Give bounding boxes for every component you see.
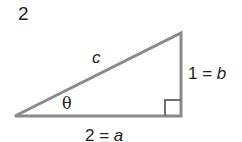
vertical-leg-label: 1 = b [188,65,226,82]
horizontal-leg-text: 2 = a [85,126,123,142]
angle-theta-label: θ [62,96,72,112]
vertical-leg-text: 1 = b [188,64,226,83]
hypotenuse-label: c [92,49,101,66]
horizontal-leg-label: 2 = a [85,127,123,142]
triangle-outline [15,33,181,116]
right-angle-marker [165,100,181,116]
